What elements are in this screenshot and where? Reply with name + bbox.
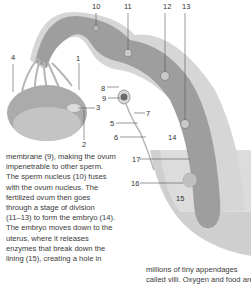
body-text-left: membrane (9), making the ovum impenetrab…: [6, 152, 126, 264]
cell-12: [161, 72, 170, 81]
cell-11: [124, 49, 132, 57]
body-text-right: millions of tiny appendages called villi…: [146, 265, 251, 285]
figure-label-9: 9: [102, 95, 106, 103]
figure-label-5: 5: [110, 120, 114, 128]
text-line: with the ovum nucleus. The: [6, 183, 126, 193]
figure-label-16: 16: [131, 180, 139, 188]
figure-label-10: 10: [92, 3, 100, 11]
figure-label-3: 3: [96, 104, 100, 112]
text-line: membrane (9), making the ovum: [6, 152, 126, 162]
figure-label-14: 14: [168, 134, 176, 142]
figure-label-12: 12: [163, 3, 171, 11]
text-line: (11–13) to form the embryo (14).: [6, 213, 126, 223]
figure-label-17: 17: [132, 156, 140, 164]
implantation-site: [183, 173, 197, 187]
text-line: enzymes that break down the: [6, 244, 126, 254]
ovary-lower: [13, 107, 81, 141]
figure-label-13: 13: [182, 3, 190, 11]
figure-label-2: 2: [82, 141, 86, 149]
figure-label-8: 8: [101, 85, 105, 93]
text-line: uterus, where it releases: [6, 234, 126, 244]
text-line: fertilized ovum then goes: [6, 193, 126, 203]
text-line: The embryo moves down to the: [6, 223, 126, 233]
figure-label-1: 1: [76, 55, 80, 63]
ovum-nucleus: [121, 94, 128, 101]
figure-label-11: 11: [124, 3, 132, 11]
text-line: through a stage of division: [6, 203, 126, 213]
figure-label-4: 4: [11, 54, 15, 62]
text-line: lining (15), creating a hole in: [6, 254, 126, 264]
figure-label-15: 15: [176, 195, 184, 203]
figure-label-6: 6: [114, 134, 118, 142]
text-line: The sperm nucleus (10) fuses: [6, 172, 126, 182]
text-line: impenetrable to other sperm.: [6, 162, 126, 172]
cell-13: [181, 120, 190, 129]
text-line: called villi. Oxygen and food are: [146, 275, 251, 285]
text-line: millions of tiny appendages: [146, 265, 251, 275]
figure-label-7: 7: [146, 110, 150, 118]
